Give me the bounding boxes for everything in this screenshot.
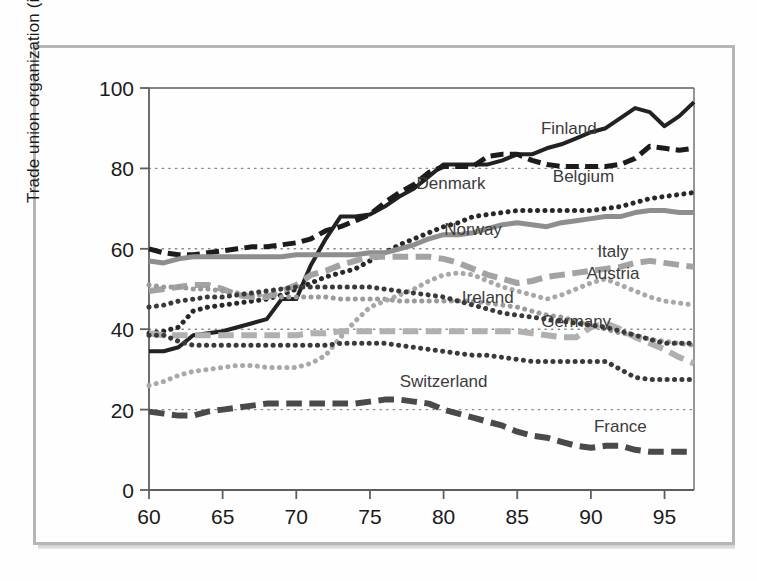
series-label-italy: Italy <box>597 242 629 261</box>
x-tick-label-80: 80 <box>432 505 455 528</box>
series-label-austria: Austria <box>587 264 640 283</box>
x-tick-label-65: 65 <box>211 505 234 528</box>
y-tick-label-80: 80 <box>111 157 134 180</box>
figure-frame: Trade union organization (in % of labour… <box>33 45 735 545</box>
series-label-finland: Finland <box>541 119 597 138</box>
y-tick-label-100: 100 <box>99 77 134 100</box>
plot-area: 020406080100 6065707580859095 FinlandDen… <box>36 48 738 548</box>
y-tick-label-60: 60 <box>111 238 134 261</box>
x-axis-ticks: 6065707580859095 <box>137 490 676 528</box>
series-line-belgium <box>149 193 694 334</box>
x-tick-label-95: 95 <box>653 505 676 528</box>
x-tick-label-90: 90 <box>579 505 602 528</box>
series-label-belgium: Belgium <box>553 167 614 186</box>
x-tick-label-60: 60 <box>137 505 160 528</box>
line-chart: 020406080100 6065707580859095 FinlandDen… <box>36 48 738 548</box>
x-tick-label-85: 85 <box>506 505 529 528</box>
series-label-germany: Germany <box>541 312 611 331</box>
series-label-switzerland: Switzerland <box>400 372 488 391</box>
series-label-norway: Norway <box>444 220 502 239</box>
chart-page: Trade union organization (in % of labour… <box>0 0 757 581</box>
y-axis-ticks: 020406080100 <box>99 77 149 502</box>
series-line-finland <box>149 102 694 351</box>
y-tick-label-0: 0 <box>122 479 134 502</box>
x-tick-label-70: 70 <box>285 505 308 528</box>
series-line-denmark <box>149 146 694 255</box>
series-label-ireland: Ireland <box>462 288 514 307</box>
y-tick-label-40: 40 <box>111 318 134 341</box>
x-tick-label-75: 75 <box>358 505 381 528</box>
series-label-france: France <box>594 417 647 436</box>
series-label-denmark: Denmark <box>416 174 485 193</box>
y-tick-label-20: 20 <box>111 399 134 422</box>
